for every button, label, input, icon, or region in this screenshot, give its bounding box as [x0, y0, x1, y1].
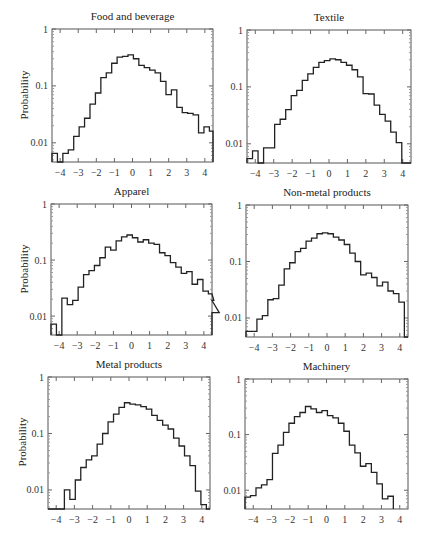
x-tick-label: 4	[397, 514, 402, 525]
y-tick-label: 1	[236, 374, 241, 385]
y-tick-label: 0.1	[229, 429, 242, 440]
x-tick-label: −3	[266, 514, 277, 525]
x-tick-label: 1	[342, 514, 347, 525]
plot-frame	[245, 379, 408, 509]
x-tick-label: 0	[324, 514, 329, 525]
x-tick-label: −2	[285, 514, 296, 525]
histogram-plot: 10.10.01−4−3−2−101234	[0, 0, 429, 535]
x-tick-label: −4	[248, 514, 259, 525]
x-tick-label: −1	[303, 514, 314, 525]
y-tick-label: 0.01	[224, 485, 242, 496]
x-tick-label: 2	[361, 514, 366, 525]
x-tick-label: 3	[379, 514, 384, 525]
histogram-step-line	[245, 407, 393, 509]
panel-machinery: Machinery10.10.01−4−3−2−101234	[0, 0, 429, 535]
